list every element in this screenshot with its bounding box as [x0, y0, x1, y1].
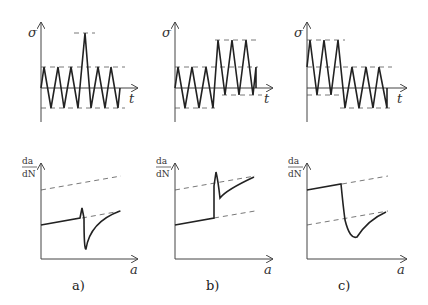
panel-c-load-history: σ t [294, 22, 407, 122]
lower-dashed-line [82, 211, 121, 218]
t-label: t [397, 91, 403, 106]
upper-dashed-line [41, 176, 121, 190]
a-label: a [130, 262, 138, 277]
sigma-label: σ [294, 25, 304, 40]
sigma-label: σ [162, 25, 172, 40]
fatigue-diagram: σ t σ t σ t da dN a a) [0, 0, 428, 305]
load-signal [41, 33, 120, 108]
panel-c-growth-rate: da dN a c) [288, 156, 407, 293]
upper-dashed-line [342, 176, 388, 184]
panel-b-load-history: σ t [162, 22, 273, 122]
dn-label: dN [288, 169, 302, 179]
growth-curve [307, 184, 386, 237]
panel-a-growth-rate: da dN a a) [22, 156, 138, 293]
caption-c: c) [338, 278, 350, 293]
da-label: da [288, 156, 300, 166]
load-signal [175, 40, 256, 108]
da-label: da [156, 156, 168, 166]
da-label: da [22, 156, 34, 166]
caption-a: a) [72, 278, 85, 293]
t-label: t [129, 91, 135, 106]
a-label: a [264, 262, 272, 277]
growth-curve [41, 208, 120, 249]
t-label: t [264, 91, 270, 106]
caption-b: b) [206, 278, 219, 293]
load-signal [307, 40, 387, 108]
lower-dashed-line [214, 211, 255, 218]
growth-curve [175, 172, 254, 225]
sigma-label: σ [28, 25, 38, 40]
panel-a-load-history: σ t [28, 22, 138, 122]
panel-b-growth-rate: da dN a b) [156, 156, 273, 293]
dn-label: dN [156, 169, 170, 179]
dn-label: dN [22, 169, 36, 179]
a-label: a [397, 262, 405, 277]
